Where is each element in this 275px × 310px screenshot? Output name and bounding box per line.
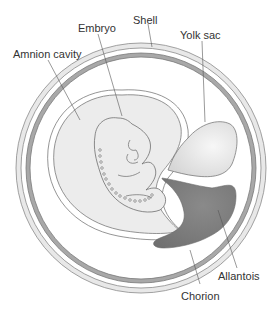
shell-label: Shell — [133, 14, 157, 26]
yolk-sac-label: Yolk sac — [180, 29, 221, 41]
amnion-cavity-label: Amnion cavity — [13, 48, 82, 60]
embryo-label: Embryo — [78, 22, 116, 34]
egg-diagram: Shell Embryo Yolk sac Amnion cavity Alla… — [0, 0, 275, 310]
chorion-label: Chorion — [181, 290, 220, 302]
allantois-label: Allantois — [218, 270, 260, 282]
